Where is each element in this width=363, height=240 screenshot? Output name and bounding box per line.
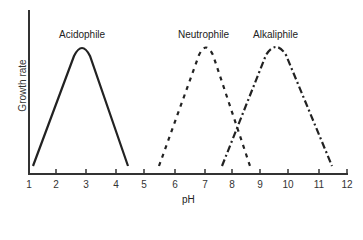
tick-label: 8 bbox=[229, 179, 235, 190]
tick-label: 5 bbox=[141, 179, 147, 190]
tick-label: 6 bbox=[172, 179, 178, 190]
neutrophile-label: Neutrophile bbox=[178, 29, 229, 40]
y-axis-label: Growth rate bbox=[17, 56, 28, 116]
acidophile-label: Acidophile bbox=[59, 29, 105, 40]
alkaliphile-label: Alkaliphile bbox=[253, 29, 298, 40]
alkaliphile-curve bbox=[222, 47, 332, 166]
tick-label: 12 bbox=[341, 179, 352, 190]
tick-label: 2 bbox=[53, 179, 59, 190]
tick-label: 11 bbox=[314, 179, 324, 190]
tick-label: 3 bbox=[83, 179, 89, 190]
tick-label: 10 bbox=[282, 179, 293, 190]
x-axis-label: pH bbox=[182, 194, 195, 205]
tick-label: 9 bbox=[257, 179, 263, 190]
tick-label: 7 bbox=[202, 179, 208, 190]
neutrophile-curve bbox=[159, 48, 250, 167]
tick-label: 1 bbox=[26, 179, 32, 190]
tick-label: 4 bbox=[113, 179, 119, 190]
acidophile-curve bbox=[33, 48, 128, 166]
